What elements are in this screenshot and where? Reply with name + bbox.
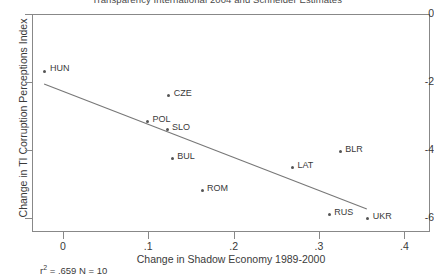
x-tick-label: .2 [214,240,254,252]
data-point-slo[interactable] [166,128,169,131]
x-tick-mark [404,232,405,239]
data-point-label-hun: HUN [50,63,70,73]
caption-n-value: 10 [97,265,108,276]
x-tick-mark [63,232,64,239]
chart-root: Transparency International 2004 and Schn… [0,0,434,277]
chart-title: Transparency International 2004 and Schn… [0,0,434,5]
plot-frame [32,14,430,232]
x-tick-label: 0 [43,240,83,252]
data-point-label-bul: BUL [177,151,195,161]
caption-r2-value: .659 [58,265,77,276]
x-tick-mark [234,232,235,239]
y-tick-mark [25,82,32,83]
x-tick-label: .1 [128,240,168,252]
y-tick-mark [25,150,32,151]
caption-equals: = [47,265,58,276]
x-tick-label: .4 [384,240,424,252]
x-tick-mark [148,232,149,239]
x-tick-mark [319,232,320,239]
y-tick-label: 0 [412,7,434,19]
x-tick-label: .3 [299,240,339,252]
y-tick-label: -4 [412,143,434,155]
chart-caption: r2 = .659 N = 10 [40,264,107,276]
data-point-label-cze: CZE [174,88,192,98]
data-point-label-ukr: UKR [373,211,392,221]
data-point-label-pol: POL [152,114,170,124]
y-tick-label: -6 [412,211,434,223]
y-tick-mark [25,218,32,219]
y-axis-label: Change in TI Corruption Perceptions Inde… [17,8,29,228]
data-point-label-rus: RUS [334,207,353,217]
y-tick-mark [25,14,32,15]
data-point-label-blr: BLR [345,144,363,154]
caption-n-label: N = [76,265,96,276]
data-point-rus[interactable] [328,213,331,216]
data-point-label-lat: LAT [298,160,314,170]
data-point-label-slo: SLO [172,122,190,132]
data-point-label-rom: ROM [207,183,228,193]
data-point-bul[interactable] [171,157,174,160]
y-tick-label: -2 [412,75,434,87]
